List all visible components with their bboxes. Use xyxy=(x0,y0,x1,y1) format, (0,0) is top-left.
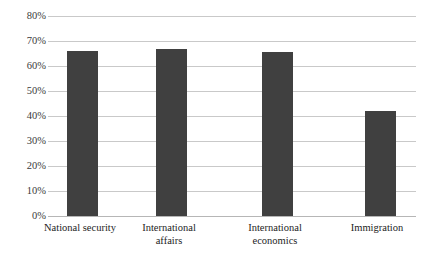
y-axis-tick-label: 40% xyxy=(6,111,46,122)
gridline-60 xyxy=(48,66,416,67)
bar-immigration xyxy=(365,111,396,216)
y-axis-tick-label: 60% xyxy=(6,61,46,72)
plot-area xyxy=(48,16,416,216)
bar-national-security xyxy=(67,51,98,216)
gridline-50 xyxy=(48,91,416,92)
y-axis-tick-label: 50% xyxy=(6,86,46,97)
y-axis-tick-label: 70% xyxy=(6,36,46,47)
y-axis-tick-label: 10% xyxy=(6,186,46,197)
y-axis-tick-label: 80% xyxy=(6,11,46,22)
gridline-40 xyxy=(48,116,416,117)
y-axis-tick-label: 20% xyxy=(6,161,46,172)
bar-international-economics xyxy=(262,52,293,216)
gridline-80 xyxy=(48,16,416,17)
gridline-70 xyxy=(48,41,416,42)
gridline-30 xyxy=(48,141,416,142)
bar-international-affairs xyxy=(156,49,187,217)
x-axis-label-immigration: Immigration xyxy=(322,221,421,234)
x-axis-label-international-economics: International economics xyxy=(216,221,334,247)
bar-chart: 80% 70% 60% 50% 40% 30% 20% 10% 0% Natio… xyxy=(0,0,421,258)
gridline-20 xyxy=(48,166,416,167)
y-axis-tick-label: 30% xyxy=(6,136,46,147)
x-axis-label-international-affairs: International affairs xyxy=(110,221,228,247)
x-axis-baseline xyxy=(48,216,416,217)
y-axis-tick-label: 0% xyxy=(6,211,46,222)
gridline-10 xyxy=(48,191,416,192)
